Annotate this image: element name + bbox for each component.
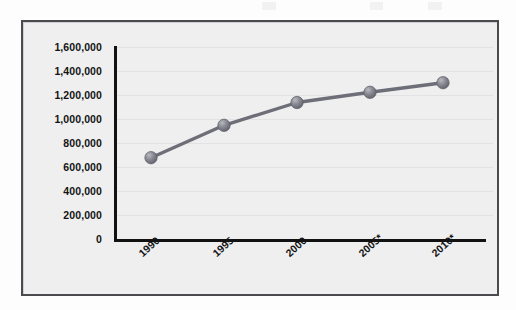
data-point-marker — [218, 119, 230, 131]
series-polyline — [151, 83, 443, 158]
data-point-marker — [291, 96, 303, 108]
plot-area: 1,600,000 1,400,000 1,200,000 1,000,000 … — [23, 22, 497, 294]
data-point-marker — [364, 86, 376, 98]
data-point-marker — [437, 77, 449, 89]
chart-frame: 1,600,000 1,400,000 1,200,000 1,000,000 … — [21, 20, 499, 296]
scan-artifact-speckles — [250, 2, 500, 10]
scanned-page: 1,600,000 1,400,000 1,200,000 1,000,000 … — [0, 0, 516, 310]
data-point-marker — [145, 152, 157, 164]
series-markers — [145, 77, 449, 164]
data-series-line — [23, 22, 501, 298]
